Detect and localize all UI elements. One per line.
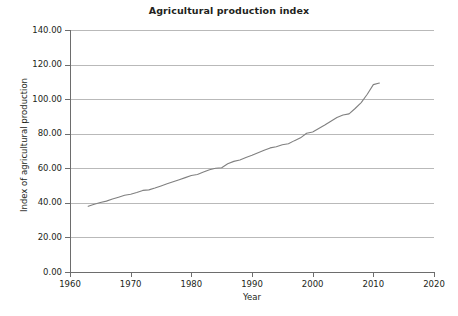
plot-area	[70, 30, 434, 272]
gridline-120	[70, 65, 434, 66]
y-tick-label-0: 0.00	[2, 268, 62, 277]
y-axis-line	[70, 30, 71, 273]
x-tick-mark-1990	[252, 272, 253, 277]
x-tick-mark-1980	[191, 272, 192, 277]
y-tick-label-60: 60.00	[2, 164, 62, 173]
y-tick-label-140: 140.00	[2, 26, 62, 35]
y-tick-mark-80	[65, 134, 70, 135]
chart-title: Agricultural production index	[0, 5, 458, 16]
y-tick-label-40: 40.00	[2, 198, 62, 207]
x-tick-mark-1970	[131, 272, 132, 277]
gridline-140	[70, 30, 434, 31]
x-tick-label-1980: 1980	[169, 279, 213, 289]
gridline-80	[70, 134, 434, 135]
y-tick-label-80: 80.00	[2, 129, 62, 138]
gridline-60	[70, 168, 434, 169]
y-tick-label-120: 120.00	[2, 60, 62, 69]
x-tick-mark-2010	[373, 272, 374, 277]
x-tick-mark-2020	[434, 272, 435, 277]
y-tick-mark-120	[65, 65, 70, 66]
gridline-40	[70, 203, 434, 204]
gridline-20	[70, 237, 434, 238]
x-tick-mark-2000	[313, 272, 314, 277]
y-tick-mark-140	[65, 30, 70, 31]
gridline-100	[70, 99, 434, 100]
y-tick-label-100: 100.00	[2, 95, 62, 104]
x-tick-label-1960: 1960	[48, 279, 92, 289]
y-tick-label-20: 20.00	[2, 233, 62, 242]
y-axis-label: Index of agricultural production	[19, 35, 29, 255]
y-tick-mark-100	[65, 99, 70, 100]
y-tick-mark-20	[65, 237, 70, 238]
x-tick-label-2010: 2010	[351, 279, 395, 289]
y-tick-mark-40	[65, 203, 70, 204]
y-tick-mark-60	[65, 168, 70, 169]
x-tick-label-2000: 2000	[291, 279, 335, 289]
chart-figure: Agricultural production index 140.00 120…	[0, 0, 458, 316]
x-tick-label-1990: 1990	[230, 279, 274, 289]
x-tick-label-2020: 2020	[412, 279, 456, 289]
caption-partial	[8, 307, 288, 315]
x-axis-label: Year	[70, 292, 434, 302]
x-tick-label-1970: 1970	[109, 279, 153, 289]
x-tick-mark-1960	[70, 272, 71, 277]
